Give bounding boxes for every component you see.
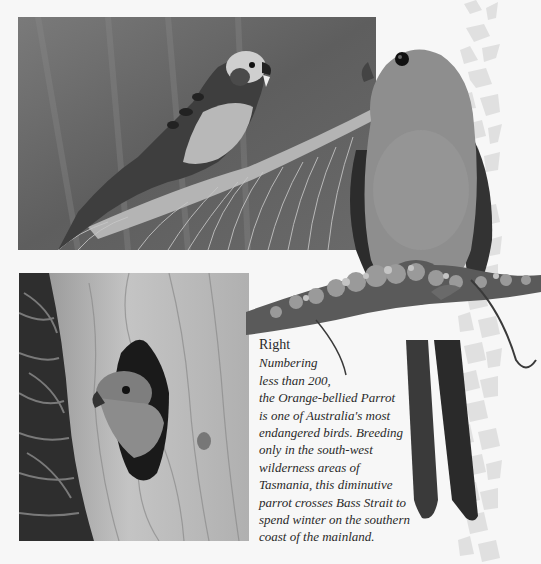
parrot-in-hollow-image	[19, 273, 249, 541]
caption-line: Numbering	[259, 354, 459, 371]
photo-parrot-in-tree-hollow	[19, 273, 249, 541]
caption: Right Numbering less than 200, the Orang…	[259, 336, 459, 546]
caption-heading: Right	[259, 336, 459, 353]
caption-line: less than 200,	[259, 372, 459, 389]
caption-line: coast of the mainland.	[259, 528, 459, 545]
caption-line: the Orange-bellied Parrot	[259, 389, 459, 406]
caption-line: wilderness areas of	[259, 459, 459, 476]
caption-line: Tasmania, this diminutive	[259, 476, 459, 493]
caption-line: is one of Australia's most	[259, 407, 459, 424]
caption-body: Numbering less than 200, the Orange-bell…	[259, 354, 459, 545]
caption-line: spend winter on the southern	[259, 511, 459, 528]
caption-line: parrot crosses Bass Strait to	[259, 494, 459, 511]
caption-line: endangered birds. Breeding	[259, 424, 459, 441]
caption-line: only in the south-west	[259, 441, 459, 458]
